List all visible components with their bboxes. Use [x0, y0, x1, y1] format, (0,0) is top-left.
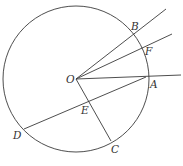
point-label-A: A [149, 78, 158, 90]
point-label-F: F [144, 45, 153, 57]
ray-OF [76, 34, 172, 79]
ray-OA [76, 75, 181, 79]
label-group: OBFAEDC [12, 20, 158, 155]
chord-DA [24, 77, 146, 129]
point-label-O: O [66, 73, 75, 85]
point-label-E: E [80, 104, 89, 116]
ray-OB [76, 9, 166, 79]
point-label-B: B [130, 20, 139, 32]
point-label-D: D [12, 129, 22, 141]
geometry-diagram: OBFAEDC [0, 0, 183, 166]
line-group [24, 9, 181, 141]
point-label-C: C [111, 143, 119, 155]
